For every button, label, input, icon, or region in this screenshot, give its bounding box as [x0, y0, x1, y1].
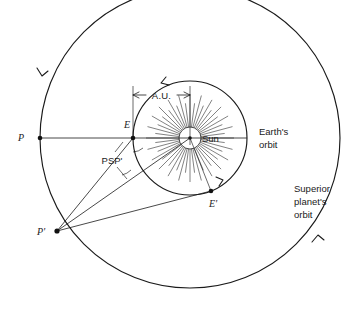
- sun-ray: [162, 145, 181, 160]
- point-p-dot: [38, 136, 43, 141]
- angle-psp-prime-label: PSP': [102, 155, 123, 166]
- angle-leader-lower: [117, 167, 127, 179]
- earth-orbit-direction-arrow: [161, 77, 169, 85]
- superior-orbit-label-line3: orbit: [294, 209, 313, 220]
- sun-ray: [197, 110, 212, 129]
- sun-ray: [199, 117, 218, 132]
- sun-ray: [193, 149, 202, 181]
- sight-lines-group: [40, 138, 247, 231]
- label-p-prime: P': [36, 226, 46, 237]
- sun-ray: [169, 147, 184, 166]
- point-eprime-dot: [209, 189, 214, 194]
- sun-ray: [148, 127, 180, 136]
- superior-orbit-direction-arrow-right: [312, 235, 324, 242]
- superior-orbit-direction-arrow-left: [37, 68, 48, 76]
- superior-orbit-label-line1: Superior: [294, 183, 330, 194]
- line-pprime-to-sun: [57, 138, 190, 231]
- angle-leader-upper: [115, 142, 123, 152]
- label-sun: Sun: [202, 133, 219, 144]
- line-pprime-to-eprime: [57, 191, 211, 231]
- sun-ray: [179, 96, 188, 128]
- orbit-labels-group: Earth's orbit Superior planet's orbit: [259, 126, 330, 220]
- line-pprime-to-e: [57, 138, 133, 231]
- sun-ray: [199, 145, 218, 160]
- point-e-dot: [131, 136, 136, 141]
- sun-ray: [197, 147, 212, 166]
- sun-ray: [179, 149, 188, 181]
- earth-orbit-label-line1: Earth's: [259, 126, 289, 137]
- sun-ray: [148, 141, 180, 150]
- label-p: P: [17, 132, 24, 143]
- earth-orbit-label-line2: orbit: [259, 139, 278, 150]
- point-pprime-dot: [54, 228, 59, 233]
- sun-ray: [169, 110, 184, 129]
- label-e: E: [123, 119, 130, 130]
- superior-orbit-label-line2: planet's: [294, 196, 327, 207]
- sun-ray: [193, 96, 202, 128]
- orbital-diagram-figure: A.U. PSP' P E E' P' Sun: [0, 0, 359, 311]
- au-label: A.U.: [152, 90, 171, 101]
- sun-ray: [162, 117, 181, 132]
- label-e-prime: E': [208, 198, 218, 209]
- diagram-canvas: A.U. PSP' P E E' P' Sun: [0, 0, 359, 311]
- angle-psp-prime-group: PSP': [102, 142, 143, 179]
